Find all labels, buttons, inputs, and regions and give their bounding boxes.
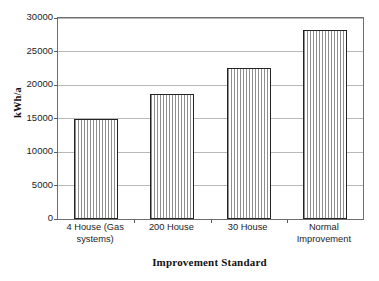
y-axis-tick-label: 15000 [9,113,53,123]
x-axis-tick-label-line: systems) [57,234,133,246]
x-axis-title: Improvement Standard [57,256,362,268]
bar [303,30,347,219]
gridline [58,18,363,19]
y-axis-tick-mark [54,51,58,52]
x-axis-tick-label: 4 House (Gassystems) [57,222,133,245]
bar [150,94,194,219]
bar-chart: kWh/a 050001000015000200002500030000 4 H… [0,0,379,281]
plot-area [57,17,364,220]
y-axis-tick-label: 30000 [9,12,53,22]
y-axis-tick-label: 20000 [9,79,53,89]
x-axis-tick-label: 30 House [210,222,286,234]
x-axis-tick-label-line: 4 House (Gas [57,222,133,234]
x-axis-tick-labels: 4 House (Gassystems)200 House30 HouseNor… [57,222,362,254]
bar [74,119,118,220]
y-axis-tick-labels: 050001000015000200002500030000 [8,0,53,281]
x-axis-tick-label-line: Normal [286,222,362,234]
y-axis-tick-label: 25000 [9,46,53,56]
y-axis-tick-mark [54,219,58,220]
x-axis-tick-label: NormalImprovement [286,222,362,245]
bar [227,68,271,219]
y-axis-tick-mark [54,118,58,119]
x-axis-tick-label-line: Improvement [286,234,362,246]
x-axis-tick-label: 200 House [133,222,209,234]
y-axis-tick-mark [54,85,58,86]
y-axis-tick-label: 10000 [9,146,53,156]
y-axis-tick-mark [54,185,58,186]
x-axis-tick-label-line: 200 House [133,222,209,234]
y-axis-tick-mark [54,152,58,153]
y-axis-tick-label: 0 [9,213,53,223]
y-axis-tick-mark [54,18,58,19]
y-axis-tick-label: 5000 [9,180,53,190]
x-axis-tick-label-line: 30 House [210,222,286,234]
